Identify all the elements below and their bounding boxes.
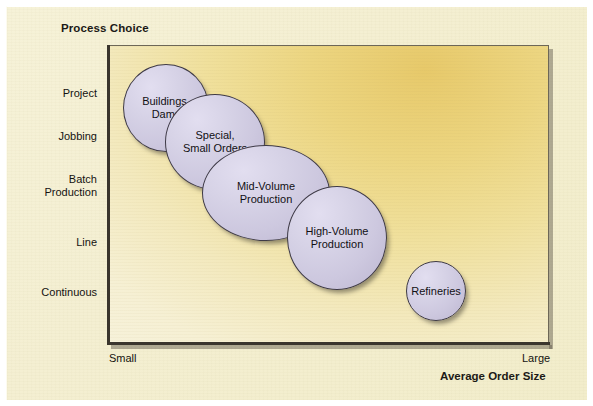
bubble-high-volume-production[interactable]: High-Volume Production	[287, 186, 387, 290]
plot-frame-shadow-bottom	[111, 345, 552, 349]
y-axis-labels: Project Jobbing Batch Production Line Co…	[0, 0, 107, 406]
y-axis-label-batch-production: Batch Production	[7, 173, 107, 198]
bubble-label: Mid-Volume Production	[237, 180, 295, 206]
plot-frame-right-rule	[548, 45, 549, 344]
bubble-label: High-Volume Production	[306, 225, 369, 251]
chart-page: Process Choice Project Jobbing Batch Pro…	[0, 0, 593, 406]
x-axis-line	[107, 342, 550, 345]
y-axis-label-project: Project	[7, 87, 107, 100]
x-axis-label-small: Small	[109, 352, 137, 364]
x-axis-title: Average Order Size	[440, 370, 546, 382]
x-axis-label-large: Large	[522, 352, 550, 364]
bubble-refineries[interactable]: Refineries	[406, 261, 466, 321]
plot-frame-shadow-right	[549, 49, 553, 349]
bubble-label: Refineries	[411, 285, 461, 298]
y-axis-line	[107, 45, 110, 345]
y-axis-label-line: Line	[7, 236, 107, 249]
y-axis-label-continuous: Continuous	[7, 286, 107, 299]
y-axis-label-jobbing: Jobbing	[7, 130, 107, 143]
plot-frame-top-rule	[107, 45, 549, 46]
